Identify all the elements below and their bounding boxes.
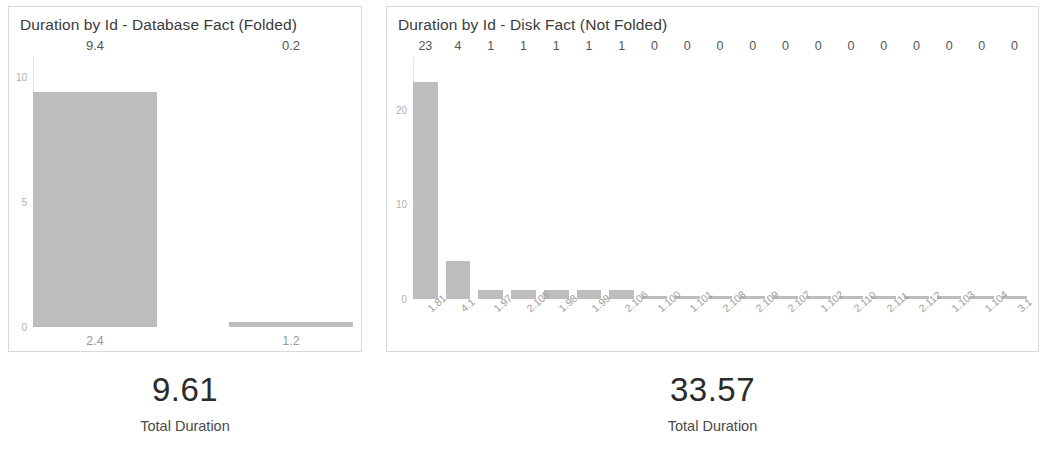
- y-axis-tick-label: 10: [16, 72, 27, 83]
- bar[interactable]: [33, 92, 157, 327]
- bar-item[interactable]: 0: [806, 57, 831, 299]
- chart-card-database-fact[interactable]: Duration by Id - Database Fact (Folded) …: [8, 6, 362, 352]
- bar-item[interactable]: 0: [675, 57, 700, 299]
- x-axis-tick-label: 2.108: [708, 299, 733, 345]
- x-axis-tick-label: 2.112: [904, 299, 929, 345]
- kpi-card-total-duration-database[interactable]: 9.61 Total Duration: [8, 372, 362, 434]
- bar-item[interactable]: 0: [642, 57, 667, 299]
- bar-value-label: 0: [749, 39, 756, 53]
- bar-value-label: 0: [946, 39, 953, 53]
- x-axis-tick-label: 4.1: [446, 299, 471, 345]
- x-axis-tick-label: 1.81: [413, 299, 438, 345]
- bar-value-label: 4: [455, 39, 462, 53]
- x-axis-tick-label: 1.100: [642, 299, 667, 345]
- y-axis-tick-label: 20: [396, 104, 407, 115]
- x-axis-tick-label: 2.110: [839, 299, 864, 345]
- bar-item[interactable]: 9.4: [33, 57, 157, 327]
- bar-value-label: 1: [487, 39, 494, 53]
- x-axis-tick-label: 3.1: [1002, 299, 1027, 345]
- bar-value-label: 1: [618, 39, 625, 53]
- x-axis-categories: 1.814.11.972.1051.981.992.1061.1001.1012…: [413, 299, 1027, 345]
- bar-item[interactable]: 0: [1002, 57, 1027, 299]
- bar-value-label: 0: [815, 39, 822, 53]
- bar-item[interactable]: 0: [773, 57, 798, 299]
- x-axis-tick-label: 2.107: [773, 299, 798, 345]
- bar-value-label: 1: [586, 39, 593, 53]
- bar-value-label: 0: [978, 39, 985, 53]
- bar-item[interactable]: 0: [871, 57, 896, 299]
- bar-value-label: 0.2: [282, 38, 300, 53]
- kpi-card-total-duration-disk[interactable]: 33.57 Total Duration: [386, 372, 1039, 434]
- bar-item[interactable]: 0: [708, 57, 733, 299]
- bar-value-label: 0: [716, 39, 723, 53]
- bar-item[interactable]: 1: [478, 57, 503, 299]
- y-axis-tick-label: 5: [21, 197, 27, 208]
- bar-item[interactable]: 23: [413, 57, 438, 299]
- bar[interactable]: [446, 261, 471, 299]
- bar-value-label: 0: [684, 39, 691, 53]
- bar-series-database-fact: 9.40.2: [33, 57, 353, 327]
- bar-value-label: 0: [782, 39, 789, 53]
- x-axis-tick-label: 2.105: [511, 299, 536, 345]
- y-axis-tick-label: 10: [396, 199, 407, 210]
- report-canvas: Duration by Id - Database Fact (Folded) …: [0, 0, 1046, 460]
- x-axis-tick-label: 1.101: [675, 299, 700, 345]
- bar-series-disk-fact: 23411111000000000000: [413, 57, 1027, 299]
- x-axis-tick-label: 2.4: [33, 327, 157, 348]
- y-axis-tick-label: 0: [401, 294, 407, 305]
- x-axis-tick-label: 1.97: [478, 299, 503, 345]
- bar-item[interactable]: 4: [446, 57, 471, 299]
- x-axis-tick-label: 1.103: [937, 299, 962, 345]
- bar-value-label: 0: [847, 39, 854, 53]
- chart-card-disk-fact[interactable]: Duration by Id - Disk Fact (Not Folded) …: [386, 6, 1039, 352]
- kpi-value: 33.57: [386, 372, 1039, 409]
- bar-item[interactable]: 0: [740, 57, 765, 299]
- x-axis-tick-label: 1.2: [229, 327, 353, 348]
- bar-value-label: 1: [553, 39, 560, 53]
- bar-item[interactable]: 1: [544, 57, 569, 299]
- kpi-label: Total Duration: [8, 418, 362, 434]
- bar-value-label: 0: [913, 39, 920, 53]
- x-axis-tick-label: 1.99: [577, 299, 602, 345]
- bar-item[interactable]: 0.2: [229, 57, 353, 327]
- x-axis-tick-label: 1.102: [806, 299, 831, 345]
- x-axis-tick-label: 2.106: [609, 299, 634, 345]
- bar-item[interactable]: 1: [577, 57, 602, 299]
- y-axis-tick-label: 0: [21, 322, 27, 333]
- bar-item[interactable]: 0: [969, 57, 994, 299]
- bar-value-label: 9.4: [86, 38, 104, 53]
- kpi-value: 9.61: [8, 372, 362, 409]
- bar-item[interactable]: 1: [609, 57, 634, 299]
- x-axis-tick-label: 2.111: [871, 299, 896, 345]
- x-axis-tick-label: 1.104: [969, 299, 994, 345]
- x-axis-tick-label: 2.109: [740, 299, 765, 345]
- bar-value-label: 1: [520, 39, 527, 53]
- bar-item[interactable]: 1: [511, 57, 536, 299]
- bar-value-label: 0: [880, 39, 887, 53]
- bar-value-label: 0: [651, 39, 658, 53]
- chart-title-database-fact: Duration by Id - Database Fact (Folded): [20, 16, 297, 34]
- bar-item[interactable]: 0: [937, 57, 962, 299]
- x-axis-categories: 2.41.2: [33, 327, 353, 348]
- bar-item[interactable]: 0: [904, 57, 929, 299]
- bar[interactable]: [413, 82, 438, 299]
- bar-value-label: 23: [418, 39, 432, 53]
- plot-area-disk-fact: 01020 23411111000000000000 1.814.11.972.…: [413, 57, 1027, 299]
- kpi-label: Total Duration: [386, 418, 1039, 434]
- plot-area-database-fact: 0510 9.40.2 2.41.2: [33, 57, 353, 327]
- x-axis-tick-label: 1.98: [544, 299, 569, 345]
- chart-title-disk-fact: Duration by Id - Disk Fact (Not Folded): [398, 16, 667, 34]
- bar-item[interactable]: 0: [839, 57, 864, 299]
- bar-value-label: 0: [1011, 39, 1018, 53]
